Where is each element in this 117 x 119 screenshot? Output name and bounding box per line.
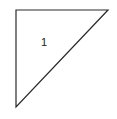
- diagram-canvas: 1: [0, 0, 117, 119]
- triangle-label: 1: [41, 36, 47, 48]
- triangle-shape: [16, 10, 108, 107]
